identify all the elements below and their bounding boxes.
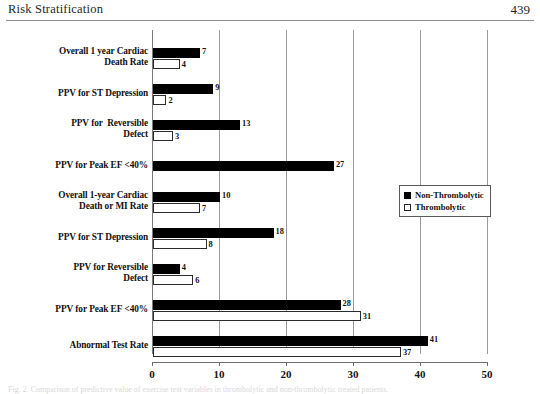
header-divider xyxy=(6,20,534,21)
bar-value-non-thrombolytic-3: 27 xyxy=(336,160,344,169)
category-label-7: PPV for Peak EF <40% xyxy=(4,304,148,315)
legend-label: Thrombolytic xyxy=(415,202,465,212)
bar-value-thrombolytic-5: 8 xyxy=(209,240,213,249)
bar-thrombolytic-8 xyxy=(153,347,401,357)
chart-legend: Non-Thrombolytic Thrombolytic xyxy=(399,185,491,217)
category-label-2: PPV for ReversibleDefect xyxy=(4,118,148,140)
bar-value-non-thrombolytic-7: 28 xyxy=(343,299,351,308)
filled-square-icon xyxy=(404,192,411,199)
bar-thrombolytic-7 xyxy=(153,311,361,321)
category-label-0: Overall 1 year CardiacDeath Rate xyxy=(4,46,148,68)
bar-value-non-thrombolytic-8: 41 xyxy=(430,335,438,344)
category-label-line: PPV for Peak EF <40% xyxy=(55,304,148,314)
bar-value-non-thrombolytic-0: 7 xyxy=(202,47,206,56)
bar-value-non-thrombolytic-2: 13 xyxy=(242,119,250,128)
legend-item-non-thrombolytic: Non-Thrombolytic xyxy=(404,189,484,201)
figure-caption: Fig. 2. Comparison of predictive value o… xyxy=(8,385,532,394)
bar-thrombolytic-4 xyxy=(153,203,200,213)
x-tick-label-30: 30 xyxy=(333,368,373,380)
x-tick-label-40: 40 xyxy=(400,368,440,380)
bar-value-thrombolytic-4: 7 xyxy=(202,204,206,213)
category-label-8: Abnormal Test Rate xyxy=(4,340,148,351)
x-tick-40 xyxy=(420,362,421,366)
category-label-line: Death or MI Rate xyxy=(79,201,148,211)
bar-value-thrombolytic-8: 37 xyxy=(403,348,411,357)
x-tick-20 xyxy=(286,362,287,366)
category-label-line: Overall 1-year Cardiac xyxy=(58,190,148,200)
bar-value-thrombolytic-2: 3 xyxy=(175,132,179,141)
bar-thrombolytic-6 xyxy=(153,275,193,285)
category-label-line: Defect xyxy=(123,129,148,139)
bar-non-thrombolytic-3 xyxy=(153,161,334,171)
page-number: 439 xyxy=(511,2,531,18)
category-label-line: Abnormal Test Rate xyxy=(70,340,148,350)
bar-non-thrombolytic-5 xyxy=(153,228,274,238)
bar-value-thrombolytic-1: 2 xyxy=(168,96,172,105)
category-label-4: Overall 1-year CardiacDeath or MI Rate xyxy=(4,190,148,212)
bar-value-non-thrombolytic-1: 9 xyxy=(215,83,219,92)
x-tick-30 xyxy=(353,362,354,366)
category-label-6: PPV for ReversibleDefect xyxy=(4,262,148,284)
x-tick-label-10: 10 xyxy=(199,368,239,380)
legend-label: Non-Thrombolytic xyxy=(415,190,484,200)
running-head-title: Risk Stratification xyxy=(8,2,103,17)
bar-non-thrombolytic-8 xyxy=(153,336,428,346)
category-label-line: Death Rate xyxy=(104,57,148,67)
bar-thrombolytic-2 xyxy=(153,131,173,141)
bar-thrombolytic-1 xyxy=(153,95,166,105)
bar-non-thrombolytic-7 xyxy=(153,300,341,310)
category-label-line: PPV for Peak EF <40% xyxy=(55,160,148,170)
bar-thrombolytic-5 xyxy=(153,239,207,249)
bar-value-non-thrombolytic-5: 18 xyxy=(276,227,284,236)
category-label-line: PPV for ST Depression xyxy=(58,88,148,98)
category-label-line: Overall 1 year Cardiac xyxy=(59,46,148,56)
bar-non-thrombolytic-0 xyxy=(153,48,200,58)
category-label-line: PPV for Reversible xyxy=(73,262,148,272)
category-label-line: PPV for Reversible xyxy=(71,118,148,128)
gridline-30 xyxy=(353,30,354,354)
bar-value-non-thrombolytic-4: 10 xyxy=(222,191,230,200)
bar-value-thrombolytic-6: 6 xyxy=(195,276,199,285)
bar-value-thrombolytic-0: 4 xyxy=(182,60,186,69)
category-label-3: PPV for Peak EF <40% xyxy=(4,160,148,171)
category-label-5: PPV for ST Depression xyxy=(4,232,148,243)
bar-thrombolytic-0 xyxy=(153,59,180,69)
x-tick-label-0: 0 xyxy=(132,368,172,380)
category-label-line: PPV for ST Depression xyxy=(58,232,148,242)
x-tick-label-20: 20 xyxy=(266,368,306,380)
x-tick-10 xyxy=(219,362,220,366)
page-header: Risk Stratification 439 xyxy=(0,0,540,26)
bar-non-thrombolytic-1 xyxy=(153,84,213,94)
bar-value-thrombolytic-7: 31 xyxy=(363,312,371,321)
open-square-icon xyxy=(404,204,411,211)
bar-value-non-thrombolytic-6: 4 xyxy=(182,263,186,272)
bar-non-thrombolytic-2 xyxy=(153,120,240,130)
bar-chart: 01020304050 Overall 1 year CardiacDeath … xyxy=(0,30,540,380)
category-label-line: Defect xyxy=(123,273,148,283)
category-label-1: PPV for ST Depression xyxy=(4,88,148,99)
legend-item-thrombolytic: Thrombolytic xyxy=(404,201,484,213)
x-tick-0 xyxy=(152,362,153,366)
bar-non-thrombolytic-4 xyxy=(153,192,220,202)
x-axis-line xyxy=(152,362,487,363)
x-tick-label-50: 50 xyxy=(467,368,507,380)
x-tick-50 xyxy=(487,362,488,366)
bar-non-thrombolytic-6 xyxy=(153,264,180,274)
